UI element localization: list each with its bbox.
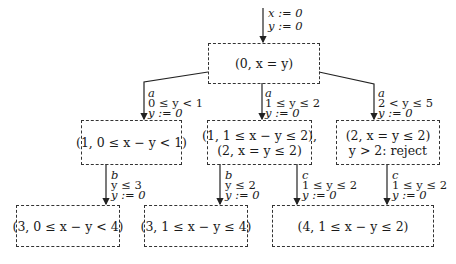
edge-root-n3 [319,72,374,119]
node-n1: (1, 0 ≤ x − y < 1) [81,120,182,165]
initial-edge-label: x := 0 y := 0 [268,8,303,31]
node-n2: (1, 1 ≤ x − y ≤ 2), (2, x = y ≤ 2) [207,120,312,165]
node-label: (2, x = y ≤ 2) [346,128,431,143]
edge-label-root-n2: a 1 ≤ y ≤ 2 y := 0 [265,88,320,118]
node-reject-note: y > 2: reject [349,143,427,158]
node-label: (3, 1 ≤ x − y ≤ 4) [141,219,252,234]
node-label: (0, x = y) [235,56,293,71]
edge-label-n2-n6: c 1 ≤ y ≤ 2 y := 0 [302,170,357,200]
node-label: (3, 0 ≤ x − y < 4) [13,219,124,234]
edge-label-n1-n4: b y ≤ 3 y := 0 [111,170,146,200]
node-n3: (2, x = y ≤ 2) y > 2: reject [336,120,440,165]
edge-reset: y := 0 [111,190,146,200]
edge-label-n3-n6: c 1 ≤ y ≤ 2 y := 0 [392,170,447,200]
edge-reset: y := 0 [225,190,260,200]
reset-y: y := 0 [268,21,303,31]
node-label: (4, 1 ≤ x − y ≤ 2) [298,219,409,234]
edge-label-root-n1: a 0 ≤ y < 1 y := 0 [148,88,203,118]
node-n6: (4, 1 ≤ x − y ≤ 2) [272,205,434,247]
edge-label-root-n3: a 2 < y ≤ 5 y := 0 [378,88,433,118]
node-label: (1, 0 ≤ x − y < 1) [76,135,187,150]
node-n5: (3, 1 ≤ x − y ≤ 4) [144,205,248,247]
reset-x: x := 0 [268,8,303,18]
node-label: (2, x = y ≤ 2) [217,143,302,158]
node-root: (0, x = y) [208,43,320,84]
node-label: (1, 1 ≤ x − y ≤ 2), [202,128,317,143]
edge-label-n2-n5: b y ≤ 2 y := 0 [225,170,260,200]
node-n4: (3, 0 ≤ x − y < 4) [16,205,120,247]
